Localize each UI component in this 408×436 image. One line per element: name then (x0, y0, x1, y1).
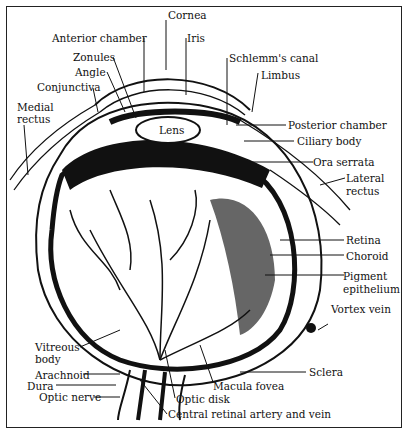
label-vitreous-body-2: body (35, 353, 61, 365)
label-optic-disk: Optic disk (176, 393, 230, 405)
label-retina: Retina (346, 234, 381, 246)
label-medial-rectus-1: Medial (17, 101, 54, 113)
label-angle: Angle (75, 66, 106, 78)
ciliary-band (62, 140, 270, 190)
label-vortex-vein: Vortex vein (331, 303, 391, 315)
label-pigment-epithelium-2: epithelium (343, 283, 400, 295)
label-sclera: Sclera (309, 366, 343, 378)
label-medial-rectus-2: rectus (17, 113, 50, 125)
label-ora-serrata: Ora serrata (313, 156, 375, 168)
label-central-retinal-artery-and-vein: Central retinal artery and vein (168, 408, 331, 420)
label-posterior-chamber: Posterior chamber (288, 119, 387, 131)
label-lateral-rectus-2: rectus (346, 185, 379, 197)
label-schlemms-canal: Schlemm's canal (229, 52, 318, 64)
label-macula-fovea: Macula fovea (213, 380, 284, 392)
label-lens: Lens (159, 124, 184, 136)
label-optic-nerve: Optic nerve (39, 391, 101, 403)
label-pigment-epithelium-1: Pigment (343, 270, 387, 282)
label-cornea: Cornea (168, 9, 207, 21)
label-limbus: Limbus (261, 69, 300, 81)
label-ciliary-body: Ciliary body (297, 135, 361, 147)
label-choroid: Choroid (346, 250, 389, 262)
label-conjunctiva: Conjunctiva (37, 81, 101, 93)
label-vitreous-body-1: Vitreous (35, 341, 80, 353)
label-iris: Iris (187, 32, 205, 44)
label-lateral-rectus-1: Lateral (346, 172, 384, 184)
vortex-vein (306, 323, 316, 333)
label-zonules: Zonules (73, 51, 115, 63)
choroid-mesh (210, 198, 275, 335)
label-anterior-chamber: Anterior chamber (52, 32, 147, 44)
